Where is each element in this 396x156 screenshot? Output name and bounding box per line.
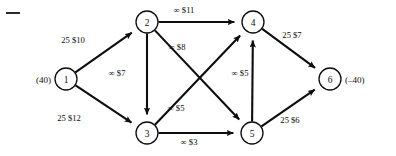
edge-label-5-4: ∞ $5 bbox=[232, 68, 249, 78]
edge-label-5-6: 25 $6 bbox=[280, 115, 300, 125]
edge-1-to-3 bbox=[76, 85, 132, 122]
node-5[interactable]: 5 bbox=[241, 122, 263, 144]
node-6[interactable]: 6(–40) bbox=[319, 68, 365, 90]
node-label-5: 5 bbox=[250, 129, 255, 139]
node-label-1: 1 bbox=[64, 75, 69, 85]
figure-canvas: 1(40)23456(–40) 25 $1025 $12∞ $11∞ $7∞ $… bbox=[0, 0, 396, 156]
network-flow-graph: 1(40)23456(–40) 25 $1025 $12∞ $11∞ $7∞ $… bbox=[0, 0, 396, 156]
scan-corner-mark bbox=[6, 12, 20, 14]
edge-label-2-3: ∞ $7 bbox=[109, 68, 127, 78]
edge-label-2-4: ∞ $11 bbox=[174, 5, 195, 15]
edge-label-3-5: ∞ $3 bbox=[181, 137, 198, 147]
edge-labels-layer: 25 $1025 $12∞ $11∞ $7∞ $8∞ $5∞ $3∞ $525 … bbox=[57, 5, 302, 147]
edge-label-1-2: 25 $10 bbox=[61, 35, 85, 45]
node-3[interactable]: 3 bbox=[136, 122, 158, 144]
node-label-4: 4 bbox=[251, 18, 256, 28]
node-label-3: 3 bbox=[145, 129, 150, 139]
supply-label-1: (40) bbox=[36, 75, 51, 85]
edge-label-3-4: ∞ $5 bbox=[168, 103, 185, 113]
edge-5-to-4 bbox=[252, 41, 253, 122]
supply-label-6: (–40) bbox=[345, 75, 365, 85]
node-2[interactable]: 2 bbox=[136, 11, 158, 33]
node-1[interactable]: 1(40) bbox=[36, 68, 77, 90]
node-label-6: 6 bbox=[328, 75, 333, 85]
edge-label-2-5: ∞ $8 bbox=[169, 42, 186, 52]
edge-label-4-6: 25 $7 bbox=[282, 30, 302, 40]
edge-label-1-3: 25 $12 bbox=[57, 113, 81, 123]
node-4[interactable]: 4 bbox=[242, 11, 264, 33]
annotations-layer bbox=[6, 12, 20, 14]
node-label-2: 2 bbox=[145, 18, 150, 28]
